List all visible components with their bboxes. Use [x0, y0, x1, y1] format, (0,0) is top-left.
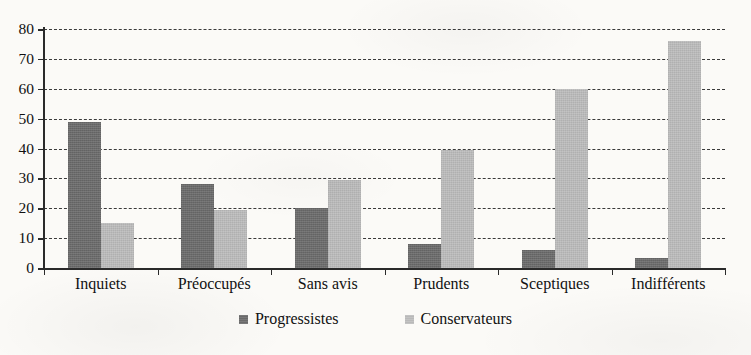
y-axis-tick-label: 10 — [0, 230, 34, 246]
bar-conservateurs-préoccupés — [214, 210, 247, 268]
x-axis-category-label: Prudents — [385, 275, 499, 293]
x-axis-tick — [498, 268, 499, 275]
y-axis-tick-label: 0 — [0, 260, 34, 276]
y-axis-tick-60 — [38, 89, 45, 91]
x-axis-tick — [158, 268, 159, 275]
y-axis-tick-20 — [38, 208, 45, 210]
bar-progressistes-prudents — [408, 244, 441, 268]
legend-swatch-conservateurs — [405, 315, 414, 324]
legend-item-label: Progressistes — [255, 311, 339, 327]
y-axis-tick-label: 70 — [0, 51, 34, 67]
bar-progressistes-sceptiques — [522, 250, 555, 268]
x-axis-end-tick — [44, 268, 45, 275]
x-axis-category-label: Sans avis — [271, 275, 385, 293]
bar-conservateurs-indifférents — [668, 41, 701, 268]
x-axis-category-label: Inquiets — [44, 275, 158, 293]
y-axis-tick-80 — [38, 29, 45, 31]
bars-layer — [44, 29, 725, 268]
x-axis-end-tick — [725, 268, 726, 275]
bar-progressistes-inquiets — [68, 122, 101, 268]
bar-progressistes-indifférents — [635, 258, 668, 268]
y-axis-tick-label: 50 — [0, 111, 34, 127]
bar-progressistes-préoccupés — [181, 184, 214, 268]
y-axis-tick-label: 40 — [0, 141, 34, 157]
x-axis-tick — [385, 268, 386, 275]
x-axis-category-label: Préoccupés — [158, 275, 272, 293]
grouped-bar-chart: 01020304050607080 InquietsPréoccupésSans… — [0, 0, 751, 355]
y-axis-tick-30 — [38, 178, 45, 180]
y-axis-tick-70 — [38, 59, 45, 61]
chart-legend: ProgressistesConservateurs — [0, 311, 751, 327]
y-axis-tick-label: 60 — [0, 81, 34, 97]
x-axis-category-label: Sceptiques — [498, 275, 612, 293]
y-axis-tick-10 — [38, 238, 45, 240]
bar-progressistes-sans-avis — [295, 208, 328, 268]
legend-swatch-progressistes — [239, 315, 248, 324]
x-axis-category-label: Indifférents — [612, 275, 726, 293]
y-axis-tick-label: 30 — [0, 171, 34, 187]
bar-conservateurs-prudents — [441, 150, 474, 268]
legend-item-conservateurs: Conservateurs — [405, 311, 513, 327]
legend-item-progressistes: Progressistes — [239, 311, 339, 327]
bar-conservateurs-sans-avis — [328, 180, 361, 268]
legend-item-label: Conservateurs — [421, 311, 513, 327]
x-axis-tick — [612, 268, 613, 275]
y-axis-tick-label: 80 — [0, 21, 34, 37]
x-axis-tick — [271, 268, 272, 275]
y-axis-tick-label: 20 — [0, 201, 34, 217]
bar-conservateurs-sceptiques — [555, 89, 588, 268]
y-axis-tick-50 — [38, 119, 45, 121]
bar-conservateurs-inquiets — [101, 223, 134, 268]
y-axis-tick-40 — [38, 149, 45, 151]
